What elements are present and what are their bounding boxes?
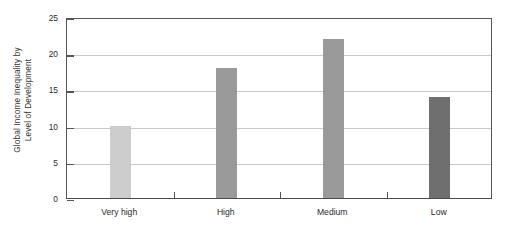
y-axis-tick-label: 25 [18,13,58,23]
x-axis-tick [280,192,281,198]
y-axis-tick-label: 10 [18,122,58,132]
y-axis-tick [67,19,74,20]
y-axis-tick [67,91,74,92]
x-axis-tick-label: Low [431,207,447,217]
gridline [67,55,491,56]
y-axis-tick [67,55,74,56]
y-axis-tick-label: 0 [18,194,58,204]
plot-area [66,18,492,199]
gridline [67,91,491,92]
bar [110,126,131,198]
y-axis-tick-label: 5 [18,158,58,168]
y-axis-tick-label: 20 [18,49,58,59]
y-axis-title-line-1: Global Income Inequality by [13,47,22,152]
x-axis-tick [387,192,388,198]
y-axis-title-line-2: Level of Development [23,47,34,152]
bar [216,68,237,198]
bar [323,39,344,198]
x-axis-tick-label: Very high [101,207,137,217]
y-axis-tick-label: 15 [18,85,58,95]
y-axis-tick [67,128,74,129]
x-axis-tick-label: Medium [317,207,348,217]
x-axis-tick-label: High [217,207,235,217]
y-axis-title: Global Income Inequality by Level of Dev… [0,0,46,200]
bar [429,97,450,198]
x-axis-tick [174,192,175,198]
y-axis-tick [67,164,74,165]
bar-chart: Global Income Inequality by Level of Dev… [0,0,512,228]
y-axis-tick [67,200,74,201]
